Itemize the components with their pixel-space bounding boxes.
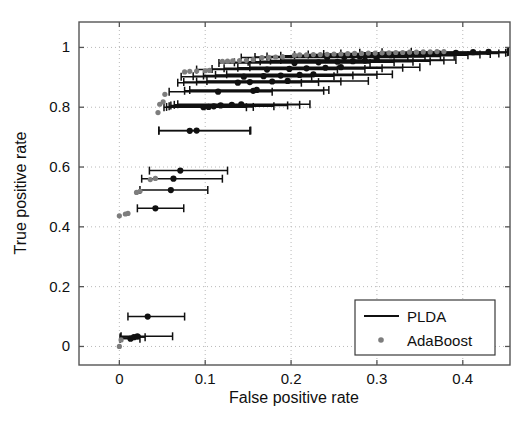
plda-point-marker — [338, 64, 344, 70]
plda-point-marker — [194, 127, 200, 133]
adaboost-point-marker — [434, 49, 439, 54]
plda-point-marker — [170, 176, 176, 182]
plda-point-marker — [177, 168, 183, 174]
plda-point-marker — [285, 78, 291, 84]
adaboost-point-marker — [325, 52, 330, 57]
adaboost-point-marker — [292, 53, 297, 58]
legend-label-adaboost: AdaBoost — [407, 332, 473, 349]
ytick-label-0: 0 — [62, 337, 70, 354]
adaboost-point-marker — [259, 55, 264, 60]
adaboost-point-marker — [338, 51, 343, 56]
ytick-label-2: 0.4 — [49, 218, 70, 235]
adaboost-point-marker — [117, 213, 122, 218]
adaboost-point-marker — [207, 68, 212, 73]
adaboost-point-marker — [117, 344, 122, 349]
adaboost-point-marker — [379, 50, 384, 55]
x-axis-title: False positive rate — [229, 389, 359, 406]
adaboost-point-marker — [373, 51, 378, 56]
xtick-label-4: 0.4 — [452, 370, 473, 387]
ytick-label-1: 0.2 — [49, 278, 70, 295]
roc-figure: 00.10.20.30.400.20.40.60.81 False positi… — [0, 0, 525, 424]
adaboost-point-marker — [118, 337, 123, 342]
legend-label-plda: PLDA — [407, 308, 446, 325]
legend-dot-swatch — [378, 337, 384, 343]
adaboost-point-marker — [441, 49, 446, 54]
plda-point-marker — [134, 333, 140, 339]
adaboost-point-marker — [161, 99, 166, 104]
adaboost-point-marker — [366, 51, 371, 56]
adaboost-point-marker — [304, 52, 309, 57]
adaboost-point-marker — [251, 57, 256, 62]
adaboost-point-marker — [220, 59, 225, 64]
plda-point-marker — [152, 205, 158, 211]
adaboost-point-marker — [182, 69, 187, 74]
adaboost-point-marker — [244, 58, 249, 63]
ytick-label-3: 0.6 — [49, 158, 70, 175]
adaboost-point-marker — [407, 50, 412, 55]
adaboost-point-marker — [393, 50, 398, 55]
xtick-label-3: 0.3 — [366, 370, 387, 387]
plda-point-marker — [145, 313, 151, 319]
adaboost-point-marker — [400, 50, 405, 55]
adaboost-point-marker — [155, 110, 160, 115]
adaboost-point-marker — [359, 51, 364, 56]
adaboost-point-marker — [345, 51, 350, 56]
adaboost-point-marker — [153, 176, 158, 181]
adaboost-point-marker — [266, 55, 271, 60]
adaboost-point-marker — [162, 92, 167, 97]
roc-chart-svg: 00.10.20.30.400.20.40.60.81 False positi… — [0, 0, 525, 424]
adaboost-point-marker — [428, 49, 433, 54]
adaboost-point-marker — [237, 58, 242, 63]
y-axis-title: True positive rate — [12, 131, 29, 254]
xtick-label-0: 0 — [115, 370, 123, 387]
adaboost-point-marker — [230, 58, 235, 63]
adaboost-point-marker — [194, 68, 199, 73]
plda-point-marker — [238, 101, 244, 107]
adaboost-point-marker — [280, 54, 285, 59]
adaboost-point-marker — [421, 49, 426, 54]
plda-point-marker — [254, 87, 260, 93]
ytick-label-5: 1 — [62, 38, 70, 55]
chart-legend: PLDAAdaBoost — [355, 300, 495, 355]
adaboost-point-marker — [331, 51, 336, 56]
adaboost-point-marker — [273, 54, 278, 59]
adaboost-point-marker — [148, 177, 153, 182]
adaboost-point-marker — [352, 51, 357, 56]
xtick-label-1: 0.1 — [195, 370, 216, 387]
plda-point-marker — [310, 71, 316, 77]
ytick-label-4: 0.8 — [49, 98, 70, 115]
adaboost-point-marker — [414, 50, 419, 55]
adaboost-point-marker — [311, 52, 316, 57]
adaboost-point-marker — [137, 189, 142, 194]
plda-point-marker — [168, 187, 174, 193]
adaboost-point-marker — [386, 50, 391, 55]
adaboost-point-marker — [318, 52, 323, 57]
adaboost-point-marker — [297, 52, 302, 57]
plda-point-marker — [485, 49, 491, 55]
adaboost-point-marker — [187, 69, 192, 74]
adaboost-point-marker — [125, 211, 130, 216]
xtick-label-2: 0.2 — [281, 370, 302, 387]
adaboost-point-marker — [225, 59, 230, 64]
